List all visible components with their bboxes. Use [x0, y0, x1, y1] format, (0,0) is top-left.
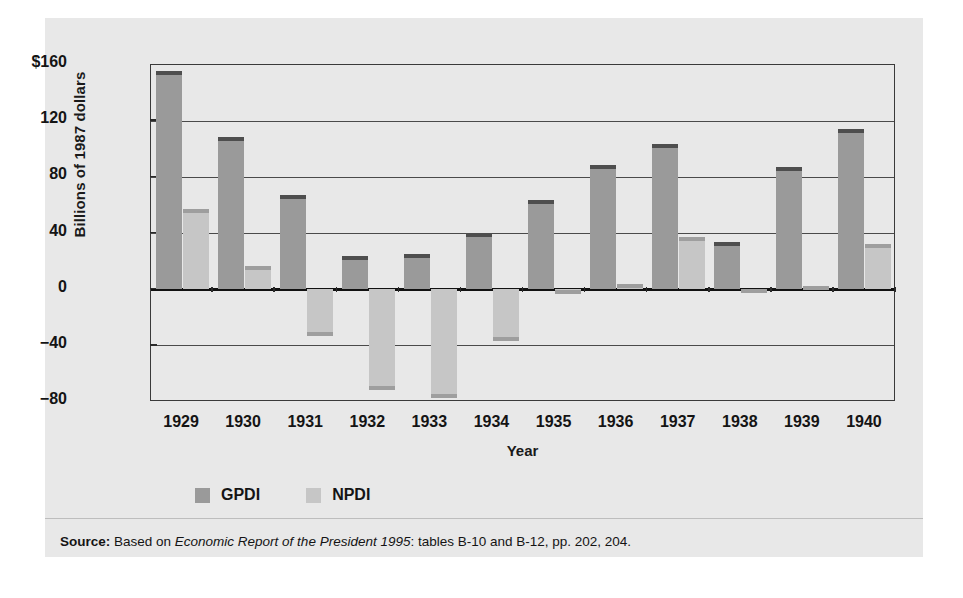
legend-label: NPDI [332, 486, 370, 504]
x-tick-mark [336, 287, 338, 292]
x-tick-mark [584, 287, 586, 292]
y-tick-mark [150, 344, 157, 346]
bar-gpdi-1939 [776, 167, 802, 289]
bar-gpdi-1938 [714, 242, 740, 288]
y-tick-label: 120 [0, 109, 67, 127]
legend-swatch-npdi-icon [306, 488, 321, 503]
bar-gpdi-1934 [466, 233, 492, 289]
x-tick-label-1935: 1935 [523, 413, 585, 431]
source-note: Source: Based on Economic Report of the … [60, 533, 910, 551]
source-label: Source: [60, 534, 110, 549]
x-tick-label-1930: 1930 [212, 413, 274, 431]
chart-legend: GPDINPDI [195, 486, 370, 504]
bar-gpdi-1936 [590, 165, 616, 289]
x-tick-mark [398, 287, 400, 292]
bar-npdi-1938 [741, 289, 767, 293]
bar-npdi-1936 [617, 284, 643, 288]
y-tick-label: $160 [0, 53, 67, 71]
x-tick-label-1934: 1934 [460, 413, 522, 431]
y-tick-label: −40 [0, 334, 67, 352]
legend-label: GPDI [221, 486, 260, 504]
bar-gpdi-1932 [342, 256, 368, 288]
y-tick-label: 80 [0, 165, 67, 183]
bar-npdi-1939 [803, 286, 829, 290]
y-axis-title: Billions of 1987 dollars [71, 25, 88, 285]
bar-npdi-1934 [493, 289, 519, 341]
x-tick-label-1937: 1937 [647, 413, 709, 431]
bar-gpdi-1940 [838, 129, 864, 289]
x-tick-label-1940: 1940 [833, 413, 895, 431]
bar-npdi-1931 [307, 289, 333, 337]
x-tick-label-1931: 1931 [274, 413, 336, 431]
bar-npdi-1930 [245, 266, 271, 288]
x-tick-label-1933: 1933 [398, 413, 460, 431]
legend-item-gpdi[interactable]: GPDI [195, 486, 260, 504]
source-lead: Based on [110, 534, 175, 549]
gridline [151, 121, 894, 122]
x-tick-mark [770, 287, 772, 292]
x-tick-mark [211, 287, 213, 292]
source-title: Economic Report of the President 1995 [175, 534, 411, 549]
x-tick-label-1936: 1936 [585, 413, 647, 431]
source-divider [45, 518, 923, 519]
figure-panel: Billions of 1987 dollars −80−4004080120$… [45, 18, 923, 557]
y-tick-label: 40 [0, 222, 67, 240]
bar-npdi-1935 [555, 289, 581, 295]
bar-npdi-1929 [183, 209, 209, 289]
bar-gpdi-1931 [280, 195, 306, 289]
x-axis-title: Year [150, 442, 895, 459]
x-tick-label-1929: 1929 [150, 413, 212, 431]
legend-item-npdi[interactable]: NPDI [306, 486, 370, 504]
x-tick-mark [894, 287, 896, 292]
x-tick-mark [273, 287, 275, 292]
bar-gpdi-1937 [652, 144, 678, 289]
bar-gpdi-1933 [404, 254, 430, 289]
x-tick-mark [460, 287, 462, 292]
legend-swatch-gpdi-icon [195, 488, 210, 503]
gridline [151, 345, 894, 346]
source-tail: : tables B-10 and B-12, pp. 202, 204. [410, 534, 631, 549]
bar-npdi-1933 [431, 289, 457, 399]
x-tick-label-1938: 1938 [709, 413, 771, 431]
bar-gpdi-1935 [528, 200, 554, 288]
bar-gpdi-1930 [218, 137, 244, 289]
y-tick-label: 0 [0, 278, 67, 296]
x-tick-mark [646, 287, 648, 292]
x-tick-label-1939: 1939 [771, 413, 833, 431]
x-tick-mark [708, 287, 710, 292]
bar-npdi-1932 [369, 289, 395, 390]
bar-gpdi-1929 [156, 71, 182, 289]
y-tick-label: −80 [0, 390, 67, 408]
bar-npdi-1940 [865, 244, 891, 289]
x-tick-mark [832, 287, 834, 292]
x-tick-label-1932: 1932 [336, 413, 398, 431]
bar-npdi-1937 [679, 237, 705, 289]
x-tick-mark [522, 287, 524, 292]
